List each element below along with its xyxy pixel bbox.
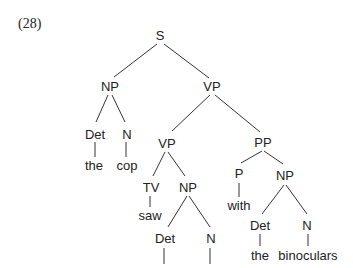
- node-s: S: [156, 28, 165, 43]
- node-tv: TV: [143, 180, 160, 195]
- node-n-object: N: [206, 231, 215, 246]
- node-np-subject: NP: [101, 79, 119, 94]
- node-np-pp: NP: [276, 168, 294, 183]
- tree-edges: [95, 44, 308, 264]
- node-vp-inner: VP: [158, 136, 175, 151]
- word-the-2: the: [251, 248, 269, 263]
- node-vp-top: VP: [203, 79, 220, 94]
- word-with: with: [226, 198, 250, 213]
- node-n-pp: N: [302, 218, 311, 233]
- node-det-object: Det: [155, 231, 176, 246]
- syntax-tree: (28) S NP Det N the cop VP VP TV saw NP …: [0, 0, 353, 268]
- word-saw: saw: [138, 208, 162, 223]
- word-cop: cop: [117, 158, 138, 173]
- node-p: P: [235, 166, 244, 181]
- node-n-subject: N: [122, 127, 131, 142]
- word-the-1: the: [85, 158, 103, 173]
- node-det-pp: Det: [250, 218, 271, 233]
- word-binoculars: binoculars: [278, 248, 338, 263]
- example-number: (28): [18, 16, 42, 32]
- node-np-object: NP: [179, 180, 197, 195]
- node-pp: PP: [254, 135, 271, 150]
- node-det-subject: Det: [85, 127, 106, 142]
